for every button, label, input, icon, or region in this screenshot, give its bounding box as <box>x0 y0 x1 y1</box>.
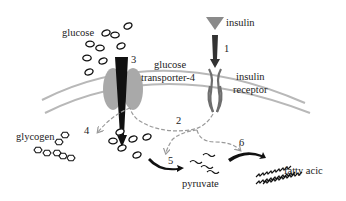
glucose-molecules-inside <box>109 128 152 159</box>
receptor-label-line1: insulin <box>236 71 265 82</box>
step-6-lipogenesis-arrow <box>228 152 266 162</box>
insulin-label: insulin <box>226 17 255 28</box>
glucose-label: glucose <box>62 27 94 38</box>
step-4-label: 4 <box>84 125 90 136</box>
insulin-icon <box>206 17 224 30</box>
glycogen-label: glycogen <box>16 131 55 142</box>
receptor-label-line2: receptor <box>233 84 268 95</box>
insulin-signaling-diagram: glucose 3 glucose transporter-4 insulin … <box>0 0 346 201</box>
pyruvate-label: pyruvate <box>182 178 219 189</box>
step-3-label: 3 <box>131 54 136 65</box>
step-5-glycolysis-arrow <box>148 158 184 172</box>
transporter-label-line1: glucose <box>154 59 186 70</box>
fatty-acid-label: fatty acic <box>284 165 323 176</box>
transporter-label-line2: transporter-4 <box>141 72 196 83</box>
step-6-label: 6 <box>239 137 244 148</box>
step-2-label: 2 <box>176 115 181 126</box>
step-1-binding-arrow <box>210 35 220 68</box>
step-5-label: 5 <box>168 155 173 166</box>
pyruvate-molecules <box>190 154 219 174</box>
step-1-label: 1 <box>224 43 229 54</box>
